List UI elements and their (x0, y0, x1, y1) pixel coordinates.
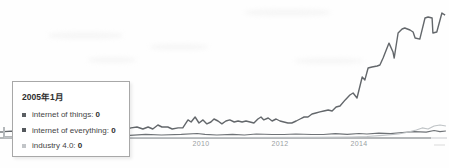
trends-chart-screenshot: 201020122014 2005年1月 internet of things:… (0, 0, 449, 168)
tooltip-item-label: internet of everything: (32, 126, 109, 135)
tooltip-item-text: industry 4.0: 0 (32, 141, 82, 150)
hover-tooltip: 2005年1月 internet of things: 0 internet o… (12, 81, 130, 157)
tick-bar (3, 127, 5, 137)
y-axis-label-fragment (0, 127, 7, 137)
tooltip-item-value: 0 (78, 141, 82, 150)
tooltip-item-value: 0 (111, 126, 115, 135)
faded-tick-mark (434, 144, 445, 146)
tooltip-item-internet-of-things: internet of things: 0 (22, 110, 123, 119)
tooltip-item-value: 0 (96, 110, 100, 119)
tooltip-date: 2005年1月 (22, 90, 123, 102)
x-axis-label-2012: 2012 (271, 140, 288, 147)
series-marker-icon (22, 144, 26, 148)
x-axis-label-2010: 2010 (192, 140, 209, 147)
tooltip-item-internet-of-everything: internet of everything: 0 (22, 126, 123, 135)
x-axis-label-2014: 2014 (350, 140, 367, 147)
tooltip-item-label: internet of things: (32, 110, 93, 119)
series-marker-icon (22, 128, 26, 132)
tooltip-item-label: industry 4.0: (32, 141, 76, 150)
series-marker-icon (22, 113, 26, 117)
tooltip-item-text: internet of everything: 0 (32, 126, 116, 135)
tooltip-item-text: internet of things: 0 (32, 110, 100, 119)
tooltip-item-industry-4-0: industry 4.0: 0 (22, 141, 123, 150)
